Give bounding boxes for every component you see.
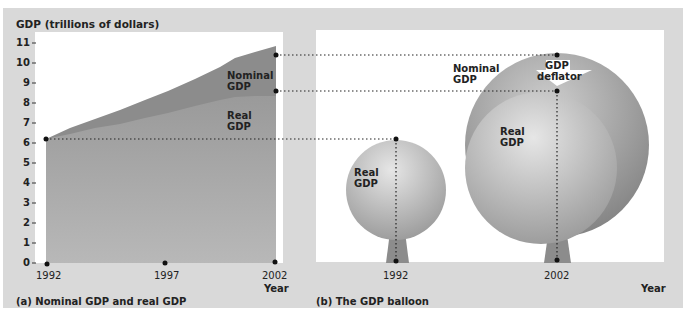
real-gdp-label: RealGDP	[227, 110, 252, 132]
y-tick: 7	[8, 118, 30, 128]
y-tick: 11	[8, 38, 30, 48]
nominal-gdp-2002-label: NominalGDP	[453, 63, 499, 85]
y-tick: 5	[8, 158, 30, 168]
y-tick: 4	[8, 178, 30, 188]
real-gdp-2002-label: RealGDP	[500, 126, 525, 148]
balloon-2002-real	[465, 92, 617, 244]
y-tick: 0	[8, 258, 30, 268]
y-tick: 6	[8, 138, 30, 148]
x-tick-2002: 2002	[262, 270, 287, 281]
panel-a-title: (a) Nominal GDP and real GDP	[16, 296, 186, 307]
y-tick: 8	[8, 98, 30, 108]
x-tick-1992: 1992	[36, 270, 61, 281]
chart-graphics	[0, 0, 689, 316]
y-tick: 2	[8, 218, 30, 228]
x-axis-label-a: Year	[264, 283, 289, 294]
nominal-gdp-label: NominalGDP	[227, 70, 273, 92]
y-tick: 9	[8, 78, 30, 88]
panel-b-title: (b) The GDP balloon	[316, 296, 429, 307]
x-axis-label-b: Year	[641, 283, 666, 294]
x-tick-1992-b: 1992	[383, 270, 408, 281]
y-tick: 3	[8, 198, 30, 208]
x-tick-2002-b: 2002	[544, 270, 569, 281]
real-gdp-1992-label: RealGDP	[354, 167, 379, 189]
y-tick: 10	[8, 58, 30, 68]
y-axis-label: GDP (trillions of dollars)	[16, 19, 159, 30]
y-tick: 1	[8, 238, 30, 248]
x-tick-1997: 1997	[154, 270, 179, 281]
gdp-deflator-label: GDPdeflator	[537, 60, 577, 82]
